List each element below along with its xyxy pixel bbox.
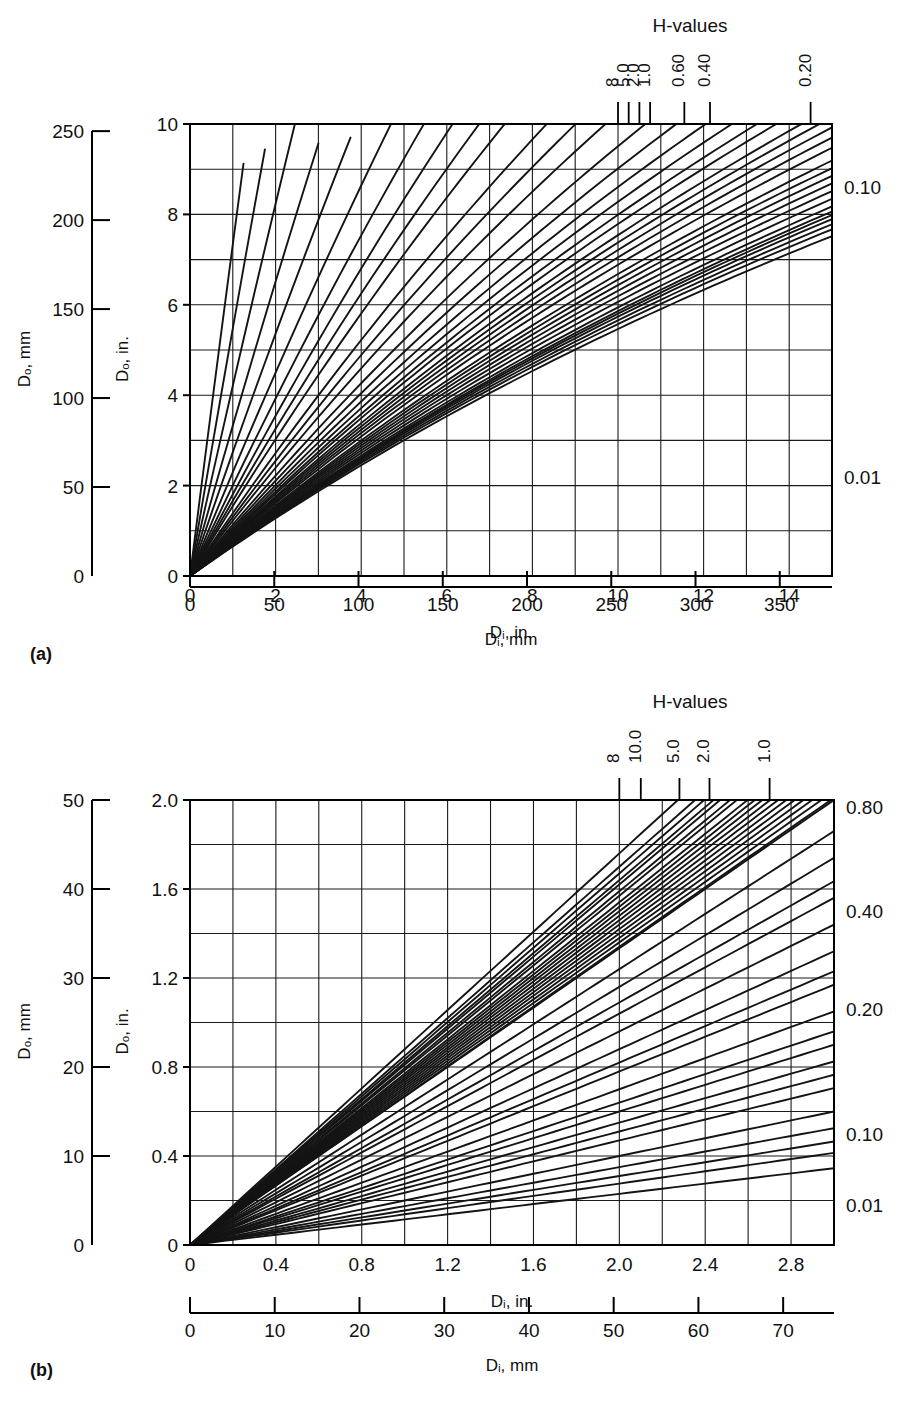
h-value-right-label: 0.40 [846, 901, 883, 922]
y-axis-mm-tick-label: 10 [63, 1146, 84, 1167]
x-axis-mm-tick-label: 100 [343, 594, 375, 615]
y-axis-mm-title: Dₒ, mm [15, 331, 34, 387]
x-axis-in-tick-label: 2.4 [692, 1254, 719, 1275]
x-axis-mm-tick-label: 40 [518, 1320, 539, 1341]
y-axis-in-tick-label: 0.8 [152, 1057, 178, 1078]
x-axis-mm-tick-label: 70 [773, 1320, 794, 1341]
y-axis-mm-tick-label: 30 [63, 968, 84, 989]
h-value-curve [190, 831, 834, 1245]
chart-a-svg: 0246810Dₒ, in.050100150200250Dₒ, mm02468… [0, 0, 907, 700]
h-values-header: H-values [653, 15, 728, 36]
x-axis-mm-tick-label: 50 [264, 594, 285, 615]
x-axis-mm-tick-label: 20 [349, 1320, 370, 1341]
h-value-top-label: 0.60 [669, 54, 688, 87]
x-axis-in-tick-label: 0.4 [263, 1254, 290, 1275]
y-axis-mm-tick-label: 100 [52, 388, 84, 409]
chart-b-svg: 00.40.81.21.62.0Dₒ, in.01020304050Dₒ, mm… [0, 676, 907, 1417]
h-value-curve [190, 236, 832, 576]
x-axis-in-tick-label: 2.8 [778, 1254, 804, 1275]
y-axis-in-tick-label: 2 [167, 476, 178, 497]
y-axis-mm-tick-label: 0 [73, 566, 84, 587]
y-axis-mm-tick-label: 40 [63, 879, 84, 900]
y-axis-mm-tick-label: 150 [52, 299, 84, 320]
h-value-right-label: 0.10 [846, 1124, 883, 1145]
h-value-top-label: 1.0 [635, 63, 654, 87]
h-value-curve [190, 1011, 834, 1245]
y-axis-in-tick-label: 1.2 [152, 968, 178, 989]
h-value-curve [190, 925, 834, 1245]
y-axis-in-tick-label: 0 [167, 566, 178, 587]
y-axis-in-tick-label: 1.6 [152, 879, 178, 900]
x-axis-mm-tick-label: 300 [680, 594, 712, 615]
y-axis-mm-tick-label: 200 [52, 210, 84, 231]
x-axis-in-tick-label: 2.0 [606, 1254, 632, 1275]
y-axis-in-tick-label: 6 [167, 295, 178, 316]
x-axis-in-tick-label: 1.2 [434, 1254, 460, 1275]
h-value-right-label: 0.10 [844, 177, 881, 198]
curve-family [190, 115, 832, 576]
figure-panel-a: 0246810Dₒ, in.050100150200250Dₒ, mm02468… [0, 0, 907, 700]
h-value-top-label: 2.0 [694, 739, 713, 763]
h-value-right-label: 0.01 [844, 467, 881, 488]
y-axis-in-tick-label: 0.4 [152, 1146, 179, 1167]
h-value-top-label: 0.20 [796, 54, 815, 87]
h-value-top-label: 5.0 [664, 739, 683, 763]
x-axis-mm-tick-label: 350 [764, 594, 796, 615]
y-axis-mm-tick-label: 250 [52, 121, 84, 142]
y-axis-mm-tick-label: 0 [73, 1235, 84, 1256]
y-axis-mm-tick-label: 50 [63, 790, 84, 811]
x-axis-mm-tick-label: 50 [603, 1320, 624, 1341]
y-axis-in-tick-label: 0 [167, 1235, 178, 1256]
h-value-curve [190, 794, 737, 1245]
h-value-right-label: 0.20 [846, 999, 883, 1020]
curve-family [190, 791, 834, 1245]
y-axis-in-tick-label: 8 [167, 204, 178, 225]
h-value-curve [190, 1061, 834, 1245]
y-axis-in-title: Dₒ, in. [113, 336, 132, 382]
h-value-top-label: 8 [604, 754, 623, 763]
h-value-top-label: 0.40 [695, 54, 714, 87]
x-axis-mm-title: Dᵢ, mm [485, 630, 538, 649]
h-value-top-label: 1.0 [755, 739, 774, 763]
h-value-right-label: 0.80 [846, 797, 883, 818]
x-axis-mm-tick-label: 30 [434, 1320, 455, 1341]
y-axis-in-tick-label: 2.0 [152, 790, 178, 811]
x-axis-mm-tick-label: 0 [185, 594, 196, 615]
h-value-top-label: 10.0 [626, 730, 645, 763]
panel-label: (b) [30, 1360, 53, 1380]
h-value-curve [190, 224, 832, 576]
x-axis-in-title: Dᵢ, in. [491, 1292, 533, 1311]
x-axis-mm-tick-label: 10 [264, 1320, 285, 1341]
y-axis-in-tick-label: 4 [167, 385, 178, 406]
x-axis-in-tick-label: 0.8 [349, 1254, 375, 1275]
x-axis-in-tick-label: 0 [185, 1254, 196, 1275]
h-value-right-label: 0.01 [846, 1195, 883, 1216]
y-axis-in-tick-label: 10 [157, 114, 178, 135]
x-axis-mm-tick-label: 60 [688, 1320, 709, 1341]
x-axis-mm-tick-label: 250 [595, 594, 627, 615]
h-values-header: H-values [653, 691, 728, 712]
x-axis-mm-tick-label: 150 [427, 594, 459, 615]
y-axis-mm-title: Dₒ, mm [15, 1003, 34, 1059]
x-axis-mm-title: Dᵢ, mm [486, 1356, 539, 1375]
y-axis-in-title: Dₒ, in. [113, 1008, 132, 1054]
y-axis-mm-tick-label: 50 [63, 477, 84, 498]
x-axis-in-tick-label: 1.6 [520, 1254, 546, 1275]
x-axis-mm-tick-label: 0 [185, 1320, 196, 1341]
y-axis-mm-tick-label: 20 [63, 1057, 84, 1078]
figure-panel-b: 00.40.81.21.62.0Dₒ, in.01020304050Dₒ, mm… [0, 676, 907, 1417]
x-axis-mm-tick-label: 200 [511, 594, 543, 615]
panel-label: (a) [30, 644, 52, 664]
